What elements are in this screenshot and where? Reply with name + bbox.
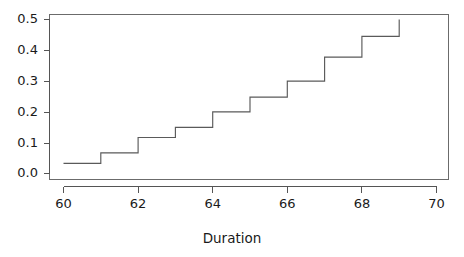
x-tick-label-0: 60 [55,196,72,211]
x-axis-title: Duration [203,230,262,246]
y-tick-label-1: 0.4 [17,42,38,57]
y-tick-label-3: 0.2 [17,104,38,119]
y-axis: 0.5 0.4 0.3 0.2 0.1 0.0 [17,11,49,180]
x-axis: 60 62 64 66 68 70 [55,187,445,212]
x-tick-label-2: 64 [204,196,221,211]
x-tick-label-3: 66 [279,196,296,211]
y-tick-label-5: 0.0 [17,165,38,180]
y-tick-label-2: 0.3 [17,73,38,88]
x-tick-label-4: 68 [354,196,371,211]
ecdf-step-curve [64,20,400,164]
x-tick-label-1: 62 [130,196,147,211]
chart-figure: 0.5 0.4 0.3 0.2 0.1 0.0 60 62 64 66 68 7… [0,0,464,257]
y-tick-label-4: 0.1 [17,135,38,150]
plot-frame [50,15,449,180]
x-tick-label-5: 70 [428,196,445,211]
step-plot-svg: 0.5 0.4 0.3 0.2 0.1 0.0 60 62 64 66 68 7… [0,0,464,257]
y-tick-label-0: 0.5 [17,11,38,26]
